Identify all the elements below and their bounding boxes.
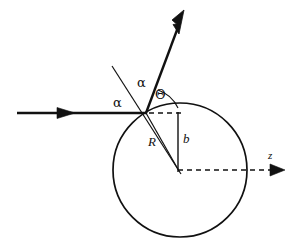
angle-label-theta: Θ [155,88,166,101]
z-axis-arrowhead [270,164,285,176]
angle-label-alpha-incident: α [113,96,122,109]
z-axis-label: z [268,150,272,161]
radius-label: R [148,135,156,148]
impact-parameter-label: b [183,132,190,145]
surface-normal-line [112,66,181,174]
angle-label-alpha-scattered: α [137,76,146,89]
scattered-ray-arrowhead [172,10,184,34]
scattering-svg [0,0,296,252]
incident-ray-arrowhead [57,108,75,119]
scattering-diagram: α α Θ R b z [0,0,296,252]
